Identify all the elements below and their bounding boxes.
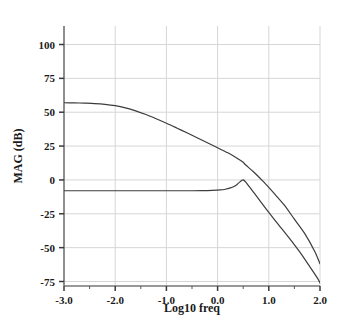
bode-magnitude-plot-figure: 1007550250-25-50-75 -3.0-2.0-1.00.01.02.… bbox=[0, 0, 341, 336]
y-tick-label: 0 bbox=[50, 174, 56, 186]
x-tick-label: -2.0 bbox=[106, 294, 124, 306]
data-series-line bbox=[64, 103, 320, 264]
x-axis-ticks bbox=[64, 286, 320, 291]
y-tick-label: 25 bbox=[44, 140, 56, 152]
data-series-line bbox=[64, 180, 320, 283]
y-tick-label: -25 bbox=[40, 208, 55, 220]
x-tick-label: -3.0 bbox=[55, 294, 73, 306]
data-series-group bbox=[64, 103, 320, 283]
axis-spines-group bbox=[64, 26, 320, 286]
y-tick-label: -50 bbox=[40, 242, 55, 254]
x-axis-title: Log10 freq bbox=[164, 301, 220, 315]
y-tick-label: 75 bbox=[44, 72, 56, 84]
y-axis-tick-labels: 1007550250-25-50-75 bbox=[39, 39, 56, 288]
y-tick-label: 100 bbox=[39, 39, 56, 51]
y-tick-label: 50 bbox=[44, 106, 56, 118]
x-tick-label: 2.0 bbox=[313, 294, 327, 306]
y-tick-label: -75 bbox=[40, 276, 55, 288]
y-axis-title: MAG (dB) bbox=[11, 129, 25, 184]
gridlines-group bbox=[64, 26, 320, 286]
x-tick-label: 1.0 bbox=[262, 294, 276, 306]
plot-canvas: 1007550250-25-50-75 -3.0-2.0-1.00.01.02.… bbox=[0, 0, 341, 336]
